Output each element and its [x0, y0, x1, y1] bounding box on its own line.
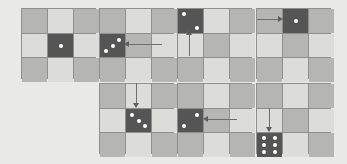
- pip: [111, 44, 115, 48]
- pip: [294, 19, 298, 23]
- die-face-1: [283, 9, 308, 33]
- pip: [182, 124, 186, 128]
- cell: [283, 133, 308, 157]
- grid-panel-1: [21, 8, 96, 79]
- die-face-6: [257, 133, 282, 157]
- pip: [273, 143, 277, 147]
- cell: [178, 58, 203, 82]
- pip: [182, 12, 186, 16]
- cell: [204, 34, 229, 57]
- cell: [204, 84, 229, 108]
- cell: [178, 84, 203, 108]
- cell: [126, 58, 151, 82]
- arrow-down-icon: [136, 83, 137, 103]
- cell: [100, 133, 125, 157]
- cell: [230, 58, 255, 82]
- cell: [283, 58, 308, 82]
- die-face-3: [100, 34, 125, 57]
- cell: [22, 34, 47, 57]
- cell: [152, 34, 177, 57]
- cell: [152, 133, 177, 157]
- cell: [126, 133, 151, 157]
- cell: [74, 58, 99, 82]
- cell: [257, 58, 282, 82]
- cell: [230, 9, 255, 33]
- cell: [100, 109, 125, 132]
- arrow-down-icon: [269, 108, 270, 127]
- cell: [100, 9, 125, 33]
- cell: [283, 109, 308, 132]
- pip: [262, 143, 266, 147]
- cell: [309, 9, 334, 33]
- die-face-3: [126, 109, 151, 132]
- arrowhead-down-icon: [266, 127, 272, 132]
- cell: [204, 133, 229, 157]
- arrow-right-icon: [257, 19, 279, 20]
- cell: [204, 9, 229, 33]
- cell: [178, 34, 203, 57]
- cell: [309, 34, 334, 57]
- pip: [273, 150, 277, 154]
- cell: [74, 34, 99, 57]
- pip: [137, 119, 141, 123]
- pip: [273, 136, 277, 140]
- pip: [117, 38, 121, 42]
- pip: [262, 150, 266, 154]
- cell: [230, 34, 255, 57]
- cell: [257, 34, 282, 57]
- arrowhead-up-icon: [186, 30, 192, 35]
- cell: [309, 133, 334, 157]
- die-face-1: [48, 34, 73, 57]
- arrow-left-icon: [128, 44, 162, 45]
- pip: [262, 136, 266, 140]
- pip: [195, 113, 199, 117]
- cell: [152, 9, 177, 33]
- cell: [22, 9, 47, 33]
- arrow-up-icon: [189, 35, 190, 56]
- cell: [100, 84, 125, 108]
- pip: [130, 113, 134, 117]
- pip: [143, 124, 147, 128]
- arrowhead-left-icon: [124, 41, 129, 47]
- cell: [152, 109, 177, 132]
- die-face-2: [178, 109, 203, 132]
- cell: [204, 58, 229, 82]
- cell: [309, 84, 334, 108]
- cell: [152, 84, 177, 108]
- cell: [48, 58, 73, 82]
- cell: [230, 84, 255, 108]
- cell: [178, 133, 203, 157]
- arrowhead-right-icon: [278, 16, 283, 22]
- cell: [257, 84, 282, 108]
- cell: [152, 58, 177, 82]
- arrowhead-left-icon: [203, 116, 208, 122]
- cell: [309, 109, 334, 132]
- cell: [309, 58, 334, 82]
- arrowhead-down-icon: [133, 103, 139, 108]
- pip: [104, 49, 108, 53]
- cell: [74, 9, 99, 33]
- cell: [100, 58, 125, 82]
- pip: [195, 26, 199, 30]
- arrow-left-icon: [207, 119, 237, 120]
- cell: [126, 34, 151, 57]
- grid-panel-7: [256, 83, 331, 154]
- cell: [230, 109, 255, 132]
- cell: [22, 58, 47, 82]
- cell: [283, 34, 308, 57]
- cell: [230, 133, 255, 157]
- cell: [283, 84, 308, 108]
- cell: [48, 9, 73, 33]
- pip: [59, 44, 63, 48]
- cell: [126, 9, 151, 33]
